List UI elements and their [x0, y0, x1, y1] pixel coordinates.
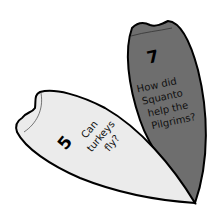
feather-cards: 7 How did Squanto help the Pilgrims? 5 C… — [0, 0, 223, 209]
